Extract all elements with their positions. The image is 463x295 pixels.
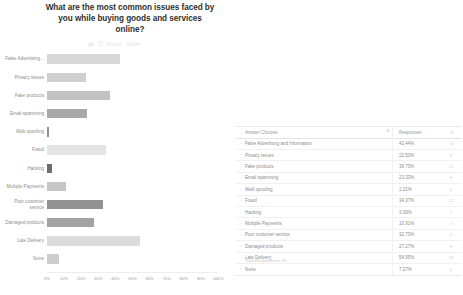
response-count: 3	[440, 221, 462, 226]
bar[interactable]	[47, 54, 120, 63]
chart-toolbar[interactable]: ▤ ☰ Export Share	[88, 39, 192, 48]
x-axis-tick-label: 20%	[77, 276, 85, 281]
response-count: 11	[440, 232, 462, 237]
answer-choice-label: Fake products	[245, 164, 383, 169]
response-count: 14	[440, 141, 462, 146]
response-count: 18	[440, 255, 462, 260]
response-count: 12	[440, 198, 462, 203]
bar[interactable]	[47, 109, 87, 118]
bar-chart-row: Poor customer service	[0, 196, 234, 214]
response-count: 4	[440, 187, 462, 192]
response-percent: 3.09%	[393, 210, 440, 215]
export-button-label[interactable]: Export	[107, 41, 122, 47]
table-row: –Poor customer service32.73%11	[236, 230, 462, 241]
table-header-row: Answer Choices ⇅ Responses ⇅	[236, 127, 462, 139]
table-row: •None7.27%4	[236, 264, 462, 275]
row-bullet: –	[236, 153, 245, 157]
bar[interactable]	[47, 182, 66, 191]
bar[interactable]	[47, 145, 106, 154]
bar[interactable]	[47, 91, 110, 100]
bar-category-label: Multiple Payments	[0, 184, 47, 189]
table-row: –Privacy issues22.53%8	[236, 150, 462, 161]
bar[interactable]	[47, 200, 103, 209]
response-count: 4	[440, 267, 462, 272]
bar-category-label: Damaged products	[0, 220, 47, 225]
answer-choice-label: Web spoofing	[245, 187, 383, 192]
sort-responses-icon[interactable]: ⇅	[440, 130, 462, 135]
table-row: –Damaged products27.27%9	[236, 241, 462, 252]
grid-icon[interactable]: ▤	[88, 41, 94, 47]
page-title-line-3: online?	[22, 24, 238, 35]
bar[interactable]	[47, 236, 140, 245]
response-count: 9	[440, 244, 462, 249]
x-axis-tick-label: 70%	[162, 276, 170, 281]
x-axis: 0%10%20%30%40%50%60%70%80%90%100%	[47, 272, 218, 292]
bar-chart-row: Hacking	[0, 159, 234, 177]
answer-choice-label: False Advertising and Information	[245, 141, 383, 146]
x-axis-tick-label: 0%	[44, 276, 50, 281]
answer-choice-label: Fraud	[245, 198, 383, 203]
table-row: –Fake products36.73%12	[236, 161, 462, 172]
response-count: 8	[440, 175, 462, 180]
bar[interactable]	[47, 73, 86, 82]
bar[interactable]	[47, 164, 52, 173]
answer-choice-label: Multiple Payments	[245, 221, 383, 226]
bar-category-label: Poor customer service	[0, 199, 47, 210]
bar-category-label: Privacy issues	[0, 75, 47, 80]
answer-choice-label: None	[245, 267, 383, 272]
response-percent: 54.55%	[393, 255, 440, 260]
bar-category-label: Web spoofing	[0, 129, 47, 134]
row-bullet: •	[236, 268, 245, 272]
bar-chart-row: Late Delivery	[0, 232, 234, 250]
responses-table: Answer Choices ⇅ Responses ⇅ –False Adve…	[236, 126, 462, 276]
bar[interactable]	[47, 127, 49, 136]
row-bullet: –	[236, 222, 245, 226]
bar-category-label: Email spamming	[0, 111, 47, 116]
bar[interactable]	[47, 218, 94, 227]
bar-track	[47, 86, 218, 104]
bar-category-label: False Advertising...	[0, 56, 47, 61]
bar-track	[47, 250, 218, 268]
bar-chart-row: Web spoofing	[0, 123, 234, 141]
bar-category-label: Fraud	[0, 147, 47, 152]
bar-chart-row: Multiple Payments	[0, 177, 234, 195]
response-count: 1	[440, 210, 462, 215]
bar-chart-row: Privacy issues	[0, 68, 234, 86]
column-header-answer-choices[interactable]: Answer Choices	[245, 130, 383, 135]
response-percent: 22.53%	[393, 153, 440, 158]
bar-track	[47, 159, 218, 177]
row-bullet: –	[236, 187, 245, 191]
answer-choice-label: Poor customer service	[245, 232, 383, 237]
table-row: –Hacking3.09%1	[236, 207, 462, 218]
x-axis-tick-label: 90%	[197, 276, 205, 281]
response-count: 8	[440, 153, 462, 158]
table-row: –Fraud34.37%12	[236, 196, 462, 207]
row-bullet: –	[236, 233, 245, 237]
bar-track	[47, 196, 218, 214]
response-percent: 36.73%	[393, 164, 440, 169]
response-percent: 32.73%	[393, 232, 440, 237]
bar-category-label: Hacking	[0, 166, 47, 171]
bar-track	[47, 123, 218, 141]
column-header-responses[interactable]: Responses	[393, 130, 440, 135]
list-icon[interactable]: ☰	[98, 41, 103, 47]
response-count: 12	[440, 164, 462, 169]
response-percent: 10.91%	[393, 221, 440, 226]
sort-answer-choices-icon[interactable]: ⇅	[383, 130, 392, 134]
response-percent: 42.44%	[393, 141, 440, 146]
row-bullet: –	[236, 244, 245, 248]
x-axis-tick-label: 80%	[180, 276, 188, 281]
bar[interactable]	[47, 254, 59, 263]
x-axis-tick-label: 30%	[94, 276, 102, 281]
share-button-label[interactable]: Share	[126, 41, 140, 47]
bar-track	[47, 68, 218, 86]
table-row: –Multiple Payments10.91%3	[236, 218, 462, 229]
bar-track	[47, 50, 218, 68]
response-percent: 1.21%	[393, 187, 440, 192]
bar-chart-rows: False Advertising...Privacy issuesFake p…	[0, 50, 234, 268]
x-axis-tick-label: 50%	[128, 276, 136, 281]
bar-category-label: None	[0, 256, 47, 261]
table-body: –False Advertising and Information42.44%…	[236, 139, 462, 276]
row-bullet: –	[236, 176, 245, 180]
answer-choice-label: Email spamming	[245, 175, 383, 180]
